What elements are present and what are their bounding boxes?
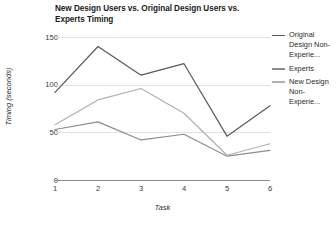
y-axis-title: Timing (seconds) xyxy=(4,42,13,152)
series-line xyxy=(55,88,270,155)
plot-area xyxy=(55,37,270,180)
x-axis-tick-label: 1 xyxy=(45,184,65,193)
x-axis-tick-label: 4 xyxy=(174,184,194,193)
chart-title: New Design Users vs. Original Design Use… xyxy=(55,4,270,25)
y-axis-tick-label: 150 xyxy=(18,33,58,42)
legend-item[interactable]: Original Design Non-Experie... xyxy=(272,30,336,61)
legend-label: New Design Non-Experie... xyxy=(289,77,333,108)
legend-label: Original Design Non-Experie... xyxy=(289,30,333,61)
x-axis-tick-label: 5 xyxy=(217,184,237,193)
series-lines xyxy=(55,37,270,180)
series-line xyxy=(55,122,270,156)
x-axis-title: Task xyxy=(55,203,270,212)
x-axis-baseline xyxy=(55,180,270,181)
y-axis-tick-label: 50 xyxy=(18,128,58,137)
chart-legend: Original Design Non-Experie...ExpertsNew… xyxy=(272,30,336,110)
x-axis-tick-label: 6 xyxy=(260,184,280,193)
x-axis-tick-label: 2 xyxy=(88,184,108,193)
legend-color-swatch xyxy=(272,35,285,37)
series-line xyxy=(55,47,270,137)
chart-container: New Design Users vs. Original Design Use… xyxy=(0,0,336,225)
legend-item[interactable]: Experts xyxy=(272,64,336,74)
legend-item[interactable]: New Design Non-Experie... xyxy=(272,77,336,108)
legend-color-swatch xyxy=(272,68,285,70)
legend-color-swatch xyxy=(272,81,285,83)
x-axis-tick-label: 3 xyxy=(131,184,151,193)
legend-label: Experts xyxy=(289,64,314,74)
y-axis-tick-label: 100 xyxy=(18,80,58,89)
